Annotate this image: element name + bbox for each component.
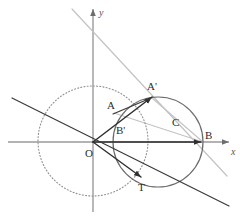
dark-lines-group (12, 97, 229, 206)
secant-line (12, 98, 229, 206)
y-axis-label: y (98, 7, 104, 18)
geometry-canvas: x y OAA'B'BT C (0, 0, 240, 222)
point-label-T: T (138, 181, 145, 193)
light-chord-A-B (114, 113, 203, 142)
x-axis-label: x (230, 146, 236, 157)
point-label-Ap: A' (147, 80, 157, 92)
light-guide-lines (72, 9, 227, 176)
circles-group (38, 86, 203, 196)
point-label-B: B (205, 129, 212, 141)
vector-O-T (93, 142, 141, 177)
point-labels-group: OAA'B'BT (85, 80, 212, 193)
point-label-Bp: B' (116, 124, 125, 136)
circle-c-label: C (172, 116, 179, 128)
geometry-figure: x y OAA'B'BT C (0, 0, 240, 222)
point-label-O: O (85, 147, 93, 159)
point-label-A: A (107, 99, 115, 111)
light-line-through-A-prime (72, 9, 227, 176)
axes-group: x y (8, 7, 236, 212)
